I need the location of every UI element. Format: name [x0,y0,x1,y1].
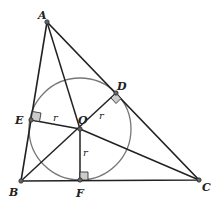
radius-label-od: r [99,110,105,121]
label-e: E [14,114,24,127]
label-f: F [75,187,85,200]
point-c [197,178,201,182]
label-c: C [202,181,211,194]
radius-label-of: r [83,147,89,158]
segment-bo-extended [21,93,116,181]
label-d: D [116,80,127,93]
label-o: O [78,114,88,127]
point-e [29,118,33,122]
point-b [19,179,23,183]
label-a: A [37,9,47,22]
geometry-diagram: A B C O D E F r r r [0,0,221,204]
point-o [78,127,82,131]
segment-oc [80,129,199,180]
point-f [78,178,82,182]
radius-label-oe: r [53,112,59,123]
label-b: B [8,186,18,199]
